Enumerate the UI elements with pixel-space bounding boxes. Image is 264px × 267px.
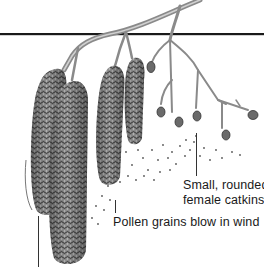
horizontal-rule [0, 33, 264, 35]
female-catkin-icon [193, 111, 201, 121]
branch [64, 0, 248, 128]
female-catkins [147, 62, 258, 141]
pollen-grain-icon [119, 159, 121, 161]
male-catkin-icon [96, 66, 124, 185]
female-catkin-icon [175, 117, 183, 127]
male-catkins-leader [38, 216, 39, 267]
female-catkin-icon [248, 111, 258, 120]
female-catkins-label-line2: female catkins [183, 193, 264, 208]
female-catkins-leader [196, 133, 197, 176]
pollen-leader [115, 200, 116, 213]
female-catkin-icon [222, 130, 230, 140]
male-catkin-icon [125, 58, 145, 145]
male-catkins [25, 58, 144, 264]
male-catkin-icon [49, 81, 88, 264]
female-catkin-icon [157, 107, 165, 117]
pollen-label: Pollen grains blow in wind [113, 215, 259, 230]
catkin-illustration: Small, rounded female catkins Pollen gra… [0, 0, 264, 267]
female-catkins-label-line1: Small, rounded [183, 178, 264, 193]
female-catkin-icon [147, 62, 155, 73]
